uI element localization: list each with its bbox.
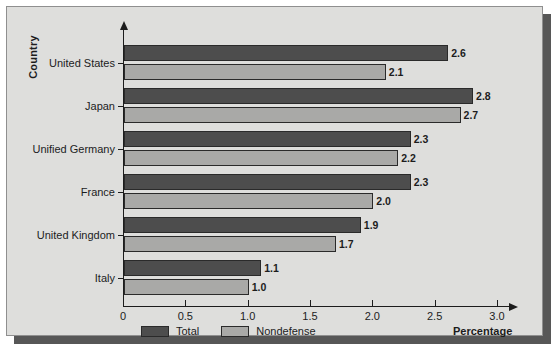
bar-total: 2.8	[124, 88, 473, 104]
legend-label: Nondefense	[256, 325, 315, 337]
y-tick	[118, 235, 123, 236]
x-axis-title: Percentage	[453, 325, 512, 337]
category-label: France	[81, 186, 115, 198]
bar-value-label: 1.0	[252, 281, 267, 293]
category-label: United States	[49, 57, 115, 69]
plot-area: 00.51.01.52.02.53.0 United States2.62.1J…	[123, 21, 523, 307]
bar-value-label: 2.3	[414, 176, 429, 188]
bar-total: 2.6	[124, 45, 448, 61]
x-tick-label: 0	[103, 310, 143, 322]
x-tick-label: 1.5	[290, 310, 330, 322]
legend-label: Total	[176, 325, 199, 337]
x-tick	[372, 300, 373, 306]
category-label: Unified Germany	[32, 143, 115, 155]
bar-total: 2.3	[124, 174, 411, 190]
y-tick	[118, 192, 123, 193]
legend-item: Nondefense	[221, 325, 315, 337]
chart-legend: TotalNondefense	[141, 325, 316, 337]
bar-nondefense: 1.0	[124, 279, 249, 295]
x-tick	[123, 300, 124, 306]
category-label: Italy	[95, 272, 115, 284]
x-axis-line	[123, 306, 510, 307]
x-tick	[248, 300, 249, 306]
x-tick-label: 0.5	[165, 310, 205, 322]
x-tick	[185, 300, 186, 306]
bar-value-label: 1.1	[264, 262, 279, 274]
chart-screenshot: Country 00.51.01.52.02.53.0 United State…	[0, 0, 559, 358]
bar-value-label: 1.7	[339, 238, 354, 250]
x-tick-label: 2.0	[352, 310, 392, 322]
category-label: United Kingdom	[37, 229, 115, 241]
bar-value-label: 2.1	[389, 66, 404, 78]
category-label: Japan	[85, 100, 115, 112]
bar-nondefense: 2.7	[124, 107, 461, 123]
bar-total: 2.3	[124, 131, 411, 147]
y-tick	[118, 278, 123, 279]
bar-value-label: 2.6	[451, 47, 466, 59]
bar-nondefense: 2.0	[124, 193, 373, 209]
x-tick	[497, 300, 498, 306]
legend-swatch-nondefense	[221, 326, 249, 337]
bar-nondefense: 2.1	[124, 64, 386, 80]
legend-swatch-total	[141, 326, 169, 337]
y-tick	[118, 63, 123, 64]
legend-item: Total	[141, 325, 199, 337]
bar-value-label: 2.2	[401, 152, 416, 164]
bar-value-label: 2.0	[376, 195, 391, 207]
bar-total: 1.9	[124, 217, 361, 233]
bar-nondefense: 1.7	[124, 236, 336, 252]
y-axis-title: Country	[27, 17, 39, 97]
bar-nondefense: 2.2	[124, 150, 398, 166]
x-tick	[435, 300, 436, 306]
y-tick	[118, 149, 123, 150]
bar-value-label: 1.9	[364, 219, 379, 231]
chart-panel: Country 00.51.01.52.02.53.0 United State…	[6, 6, 543, 336]
bar-total: 1.1	[124, 260, 261, 276]
x-tick-label: 2.5	[415, 310, 455, 322]
x-tick-label: 1.0	[228, 310, 268, 322]
bar-value-label: 2.3	[414, 133, 429, 145]
bar-value-label: 2.8	[476, 90, 491, 102]
x-tick-label: 3.0	[477, 310, 517, 322]
y-tick	[118, 106, 123, 107]
x-tick	[310, 300, 311, 306]
y-axis-arrow-icon	[120, 21, 128, 30]
bar-value-label: 2.7	[464, 109, 479, 121]
